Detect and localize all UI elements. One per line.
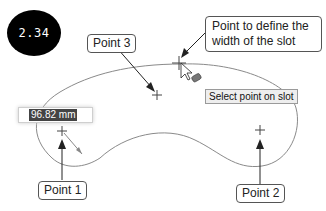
cursor-tooltip: Select point on slot	[205, 89, 298, 104]
mouse-cursor-icon	[181, 63, 202, 83]
point2-arrowhead	[256, 139, 264, 149]
callout-point-1: Point 1	[38, 181, 87, 200]
radius-dimension-input[interactable]: 96.82 mm	[18, 107, 93, 123]
callout-slot-width-point: Point to define the width of the slot	[205, 16, 322, 52]
callout-point-2: Point 2	[236, 184, 285, 203]
point3-arrowhead	[146, 82, 155, 92]
callout-line-2: width of the slot	[212, 34, 315, 49]
point-2-marker[interactable]	[255, 125, 265, 135]
callout-point-3: Point 3	[87, 34, 136, 53]
callout-line-1: Point to define the	[212, 19, 315, 34]
point-3-marker[interactable]	[152, 90, 162, 100]
dimension-value[interactable]: 96.82 mm	[29, 109, 77, 121]
point3-arrow	[117, 48, 152, 88]
step-badge: 2.34	[7, 10, 61, 56]
point1-arrowhead	[58, 139, 66, 149]
